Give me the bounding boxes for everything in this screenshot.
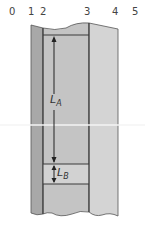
diagram-graphic xyxy=(0,0,145,226)
column-label-1: 1 xyxy=(28,6,34,18)
column-label-5: 5 xyxy=(132,6,138,18)
column-label-0: 0 xyxy=(9,6,15,18)
lb-dimension-label: LB xyxy=(57,167,69,183)
lb-subscript: B xyxy=(63,172,69,181)
layer-cross-section-diagram: 0 1 2 3 4 5 LA LB xyxy=(0,0,145,226)
la-subscript: A xyxy=(56,99,61,108)
middle-panel xyxy=(43,23,89,216)
column-label-2: 2 xyxy=(40,6,46,18)
la-dimension-label: LA xyxy=(49,94,63,110)
column-label-4: 4 xyxy=(112,6,118,18)
right-panel xyxy=(89,23,118,216)
left-strip xyxy=(31,25,43,215)
column-label-3: 3 xyxy=(84,6,90,18)
